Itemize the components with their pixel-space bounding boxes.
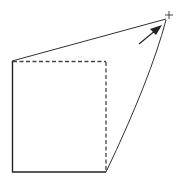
direction-arrow-icon [139,25,162,44]
projection-line-right [106,20,166,172]
projection-line-top [12,19,166,61]
vanishing-point-crosshair-icon [165,11,173,19]
diagram-canvas [0,0,180,180]
